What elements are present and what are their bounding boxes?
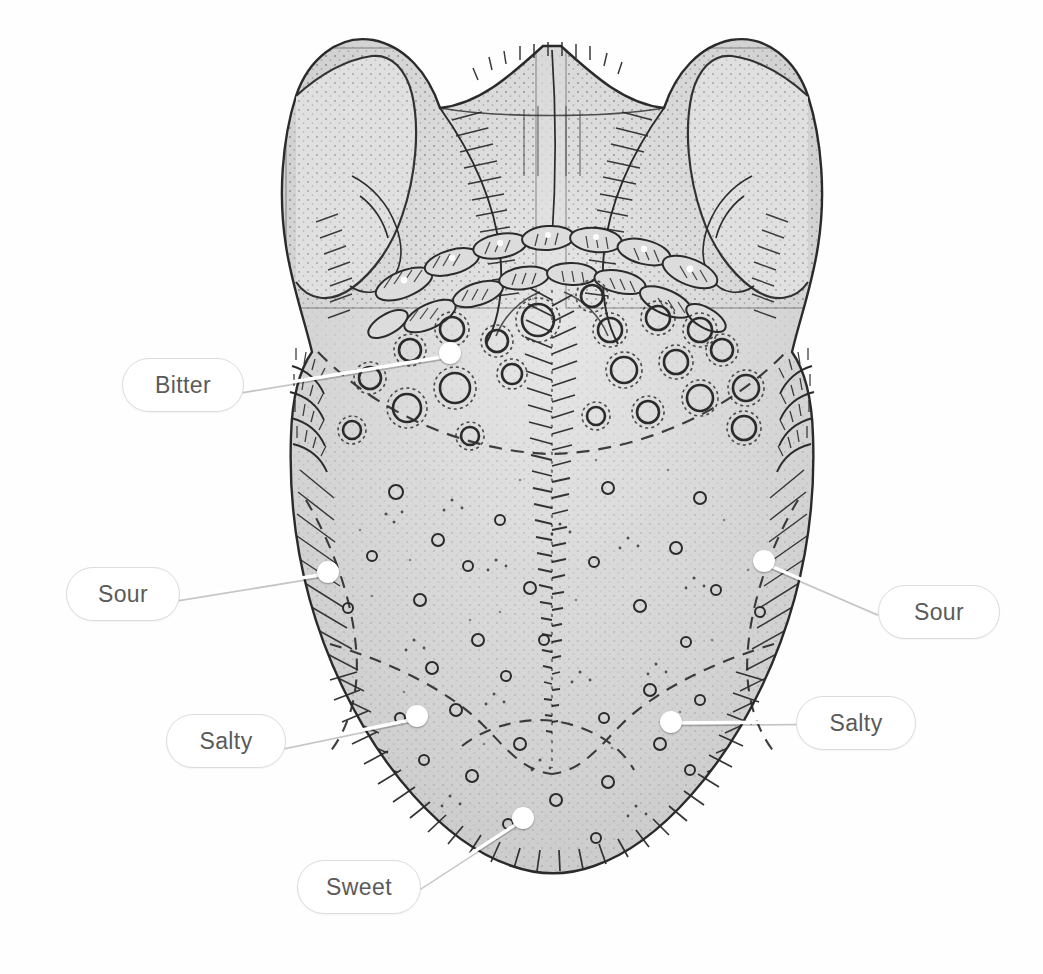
label-pill-bitter[interactable]: Bitter: [122, 358, 244, 412]
leader-line-shadow: [179, 576, 326, 600]
label-text-sweet: Sweet: [326, 874, 392, 901]
label-text-salty-right: Salty: [829, 710, 882, 737]
label-pill-salty-right[interactable]: Salty: [796, 696, 916, 750]
label-pill-sour-right[interactable]: Sour: [878, 585, 1000, 639]
label-text-bitter: Bitter: [155, 372, 211, 399]
label-pill-sweet[interactable]: Sweet: [297, 860, 421, 914]
marker-dot-bitter[interactable]: [439, 342, 461, 364]
marker-dot-salty-right[interactable]: [660, 711, 682, 733]
label-pill-salty-left[interactable]: Salty: [166, 714, 286, 768]
leader-line-sour-left: [179, 574, 326, 598]
marker-dot-sweet[interactable]: [512, 807, 534, 829]
marker-dot-sour-right[interactable]: [753, 550, 775, 572]
leader-line-salty-right: [673, 722, 795, 723]
label-text-salty-left: Salty: [199, 728, 252, 755]
label-text-sour-right: Sour: [914, 599, 964, 626]
marker-dot-sour-left[interactable]: [317, 561, 339, 583]
marker-dot-salty-left[interactable]: [406, 705, 428, 727]
label-text-sour-left: Sour: [98, 581, 148, 608]
figure-canvas: BitterSourSourSaltySaltySweet: [0, 0, 1043, 974]
label-pill-sour-left[interactable]: Sour: [66, 567, 180, 621]
